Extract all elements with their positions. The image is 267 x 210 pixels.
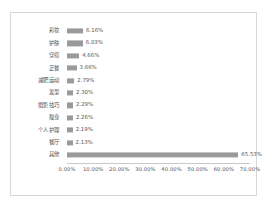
x-tick-label: 0.00% [59, 167, 76, 172]
x-axis-line [67, 163, 250, 164]
bar[interactable] [67, 153, 238, 158]
bar-track: 2.30% [67, 87, 250, 99]
bar-value-label: 65.53% [238, 152, 262, 157]
bar-track: 6.16% [67, 25, 250, 37]
x-tick-label: 30.00% [135, 167, 155, 172]
bar-row: 餐厅2.13% [11, 137, 256, 149]
category-label: 其他 [11, 152, 63, 157]
bar-row: 瘦身2.26% [11, 112, 256, 124]
x-tick-label: 10.00% [83, 167, 103, 172]
bar-row: 护肤6.03% [11, 37, 256, 49]
category-label: 彩妆 [11, 28, 63, 33]
category-label: 餐厅 [11, 140, 63, 145]
bar-value-label: 2.30% [73, 90, 93, 95]
x-axis-tick-labels: 0.00%10.00%20.00%30.00%40.00%50.00%60.00… [67, 167, 250, 179]
bar-value-label: 3.66% [77, 66, 97, 71]
bar-track: 3.66% [67, 62, 250, 74]
bar-track: 2.19% [67, 124, 250, 136]
bar[interactable] [67, 53, 79, 58]
x-tick-label: 60.00% [214, 167, 234, 172]
bar[interactable] [67, 66, 77, 71]
category-label: 护肤 [11, 41, 63, 46]
x-tick-label: 20.00% [109, 167, 129, 172]
bar-row: 正餐3.66% [11, 62, 256, 74]
category-label: 发型 [11, 90, 63, 95]
bar-row: 个人护理2.19% [11, 124, 256, 136]
x-tick-label: 70.00% [240, 167, 260, 172]
bar-value-label: 6.16% [83, 28, 103, 33]
bar-track: 2.26% [67, 112, 250, 124]
category-label: 正餐 [11, 66, 63, 71]
bar[interactable] [67, 29, 83, 34]
bar-row: 减肥运动2.79% [11, 75, 256, 87]
bar-track: 2.79% [67, 75, 250, 87]
x-tick-label: 50.00% [188, 167, 208, 172]
bar[interactable] [67, 78, 74, 83]
bar-track: 2.13% [67, 137, 250, 149]
chart-frame: 彩妆6.16%护肤6.03%穿搭4.66%正餐3.66%减肥运动2.79%发型2… [10, 12, 257, 196]
category-label: 摄影技巧 [11, 103, 63, 108]
bar-value-label: 2.29% [73, 103, 93, 108]
bar-row: 摄影技巧2.29% [11, 99, 256, 111]
bar[interactable] [67, 41, 83, 46]
category-label: 穿搭 [11, 53, 63, 58]
category-label: 个人护理 [11, 128, 63, 133]
bar-row: 穿搭4.66% [11, 50, 256, 62]
bar-value-label: 2.79% [74, 78, 94, 83]
bar-row: 彩妆6.16% [11, 25, 256, 37]
bar-track: 6.03% [67, 37, 250, 49]
bar-track: 2.29% [67, 99, 250, 111]
x-tick-label: 40.00% [161, 167, 181, 172]
bar-value-label: 4.66% [79, 53, 99, 58]
bar-track: 65.53% [67, 149, 250, 161]
bar-value-label: 6.03% [83, 41, 103, 46]
bar-row: 发型2.30% [11, 87, 256, 99]
bar-value-label: 2.26% [73, 115, 93, 120]
category-label: 减肥运动 [11, 78, 63, 83]
category-label: 瘦身 [11, 115, 63, 120]
bar-track: 4.66% [67, 50, 250, 62]
bar-value-label: 2.13% [73, 140, 93, 145]
bar-row: 其他65.53% [11, 149, 256, 161]
bar-value-label: 2.19% [73, 128, 93, 133]
